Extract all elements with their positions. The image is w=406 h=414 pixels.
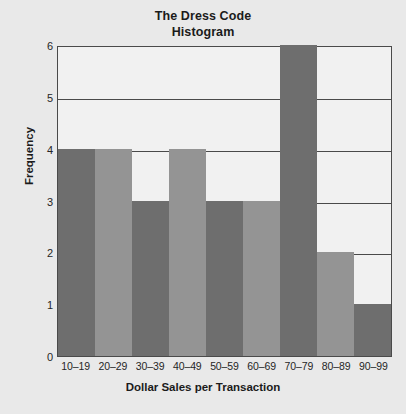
bar-series <box>58 47 391 356</box>
bar <box>317 252 354 356</box>
x-axis-label: Dollar Sales per Transaction <box>0 381 406 393</box>
y-tick-label: 4 <box>23 144 53 156</box>
y-tick-label: 2 <box>23 247 53 259</box>
bar <box>206 201 243 357</box>
bar <box>132 201 169 357</box>
y-tick-label: 6 <box>23 40 53 52</box>
y-axis-ticks: 0123456 <box>15 46 53 357</box>
chart-title-line2: Histogram <box>0 24 406 40</box>
y-tick-label: 1 <box>23 299 53 311</box>
bar <box>354 304 391 356</box>
bar <box>280 45 317 356</box>
x-tick-label: 80–89 <box>318 360 355 372</box>
bar <box>243 201 280 357</box>
x-tick-label: 90–99 <box>355 360 392 372</box>
x-tick-label: 30–39 <box>131 360 168 372</box>
chart-title: The Dress Code Histogram <box>0 8 406 40</box>
histogram-figure: The Dress Code Histogram Frequency 01234… <box>0 0 406 414</box>
y-tick-label: 0 <box>23 351 53 363</box>
x-tick-label: 60–69 <box>243 360 280 372</box>
x-axis-ticks: 10–1920–2930–3940–4950–5960–6970–7980–89… <box>57 360 392 372</box>
y-tick-label: 5 <box>23 92 53 104</box>
x-tick-label: 70–79 <box>280 360 317 372</box>
y-tick-label: 3 <box>23 196 53 208</box>
x-tick-label: 20–29 <box>94 360 131 372</box>
bar <box>58 149 95 356</box>
bar <box>169 149 206 356</box>
plot-area <box>57 46 392 357</box>
x-tick-label: 50–59 <box>206 360 243 372</box>
bar <box>95 149 132 356</box>
chart-title-line1: The Dress Code <box>155 9 252 23</box>
x-tick-label: 40–49 <box>169 360 206 372</box>
x-tick-label: 10–19 <box>57 360 94 372</box>
